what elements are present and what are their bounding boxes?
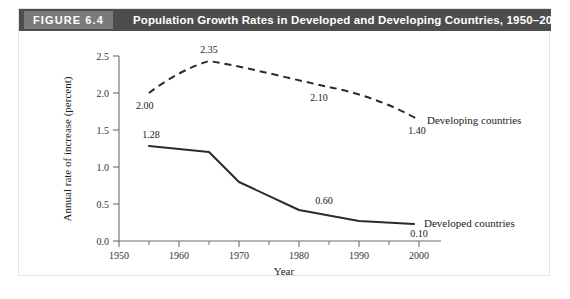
y-tick-label-0-5: 0.5	[97, 199, 110, 210]
figure-container: FIGURE 6.4 Population Growth Rates in De…	[18, 8, 550, 276]
data-label-2-10: 2.10	[310, 92, 328, 103]
y-tick-label-1-0: 1.0	[97, 162, 110, 173]
series-label-developed: Developed countries	[424, 217, 515, 229]
x-axis-title: Year	[274, 265, 295, 276]
figure-header-bar: FIGURE 6.4 Population Growth Rates in De…	[19, 9, 551, 31]
x-tick-label-1950: 1950	[109, 250, 129, 261]
x-tick-label-1960: 1960	[169, 250, 189, 261]
data-label-2-35: 2.35	[200, 44, 218, 55]
figure-title: Population Growth Rates in Developed and…	[133, 14, 566, 26]
chart-plot-area: 2.5 2.0 1.5 1.0 0.5 0.0 Annual rate of i…	[19, 31, 551, 276]
y-tick-label-1-5: 1.5	[97, 125, 110, 136]
data-label-1-28: 1.28	[142, 129, 160, 140]
y-tick-label-2-5: 2.5	[97, 51, 110, 62]
series-label-developing: Developing countries	[427, 114, 521, 126]
figure-number-badge: FIGURE 6.4	[24, 11, 113, 29]
y-axis-title: Annual rate of increase (percent)	[61, 76, 74, 221]
data-label-1-40: 1.40	[408, 125, 426, 136]
series-line-developed	[149, 146, 414, 224]
x-tick-label-1970: 1970	[229, 250, 249, 261]
y-tick-label-0-0: 0.0	[97, 236, 110, 247]
data-label-2-00: 2.00	[136, 100, 154, 111]
data-label-0-10: 0.10	[410, 228, 428, 239]
y-tick-label-2-0: 2.0	[97, 88, 110, 99]
x-tick-label-1990: 1990	[349, 250, 369, 261]
series-line-developing	[149, 61, 419, 120]
data-label-0-60: 0.60	[315, 195, 333, 206]
x-tick-label-1980: 1980	[289, 250, 309, 261]
x-tick-label-2000: 2000	[409, 250, 429, 261]
